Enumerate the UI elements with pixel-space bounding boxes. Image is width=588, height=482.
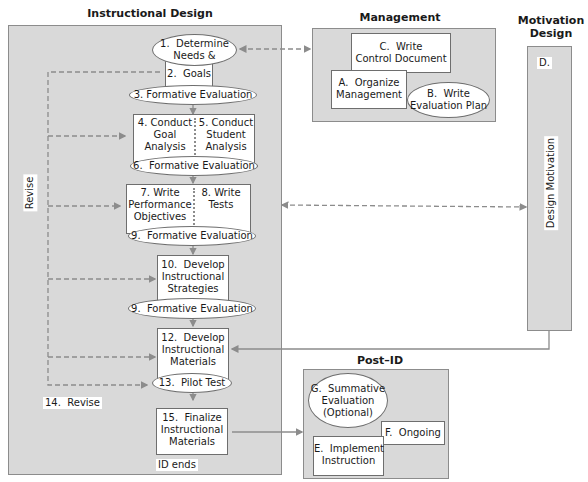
step-e-implement-instruction: E. Implement Instruction [313, 436, 384, 476]
divider [193, 188, 195, 228]
step-a-organize-management: A. Organize Management [331, 70, 407, 109]
revise-vertical-label: Revise [23, 175, 37, 212]
step-6-formative-evaluation: 6. Formative Evaluation [130, 156, 258, 176]
step-1-determine-needs: 1. Determine Needs & [152, 34, 237, 66]
connector-lines [0, 0, 588, 482]
step-10-develop-strategies: 10. Develop Instructional Strategies [157, 255, 229, 303]
design-motivation-vertical-label: Design Motivation [544, 136, 558, 230]
step-d-label: D. [537, 57, 552, 69]
step-g-summative-evaluation: G. Summative Evaluation (Optional) [308, 373, 388, 428]
step-c-control-document: C. Write Control Document [351, 33, 451, 73]
step-9-formative-evaluation: 9. Formative Evaluation [128, 226, 256, 246]
divider [194, 118, 196, 158]
step-b-evaluation-plan: B. Write Evaluation Plan [407, 82, 490, 118]
step-3-formative-evaluation: 3. Formative Evaluation [129, 85, 257, 105]
step-9-formative-evaluation-2: 9. Formative Evaluation [128, 298, 256, 319]
step-13-pilot-test: 13. Pilot Test [152, 373, 232, 393]
step-7-performance-objectives: 7. Write Performance Objectives [127, 187, 193, 223]
step-15-finalize-materials: 15. Finalize Instructional Materials [156, 408, 228, 455]
id-ends-label: ID ends [156, 459, 198, 471]
step-8-write-tests: 8. Write Tests [195, 187, 247, 211]
step-5-student-analysis: 5. Conduct Student Analysis [197, 117, 255, 153]
step-14-revise-label: 14. Revise [43, 397, 102, 409]
step-f-ongoing: F. Ongoing [381, 421, 445, 445]
step-4-goal-analysis: 4. Conduct Goal Analysis [136, 117, 194, 153]
